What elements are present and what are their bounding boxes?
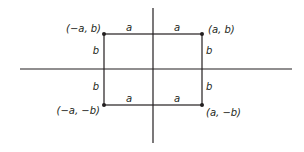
side-label-a-bottom-left: a (126, 93, 132, 104)
vertex-label-top-right: (a, b) (208, 24, 235, 35)
side-label-a-top-left: a (126, 22, 132, 33)
side-label-b-left-upper: b (93, 45, 99, 56)
coordinate-diagram: (−a, b) (a, b) (−a, −b) (a, −b) a a a a … (0, 0, 304, 152)
vertex-label-top-left: (−a, b) (66, 23, 101, 34)
side-label-a-top-right: a (174, 22, 180, 33)
vertex-dot-top-left (102, 32, 106, 36)
side-label-b-right-upper: b (206, 45, 212, 56)
side-label-a-bottom-right: a (174, 93, 180, 104)
side-label-b-left-lower: b (93, 81, 99, 92)
vertex-dot-top-right (200, 32, 204, 36)
vertex-dot-bottom-right (200, 103, 204, 107)
vertex-label-bottom-right: (a, −b) (206, 107, 241, 118)
vertex-label-bottom-left: (−a, −b) (57, 105, 100, 116)
vertex-dot-bottom-left (102, 103, 106, 107)
side-label-b-right-lower: b (206, 81, 212, 92)
